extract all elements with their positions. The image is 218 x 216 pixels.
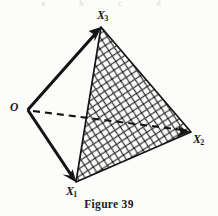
hatched-face-x1-x2-x3 <box>76 27 191 182</box>
vertex-label-x3-subscript: 3 <box>104 14 108 23</box>
vertex-label-x1: X1 <box>66 184 77 199</box>
edge-o-to-x1-solid <box>29 111 77 183</box>
tetrahedron-diagram <box>0 0 218 216</box>
vertex-label-o: O <box>10 101 18 113</box>
figure-39: a b c d <box>0 0 218 216</box>
vertex-label-x2-subscript: 2 <box>200 138 204 147</box>
vertex-label-x2: X2 <box>193 132 204 147</box>
vertex-label-x3: X3 <box>97 8 108 23</box>
figure-caption: Figure 39 <box>0 198 218 210</box>
